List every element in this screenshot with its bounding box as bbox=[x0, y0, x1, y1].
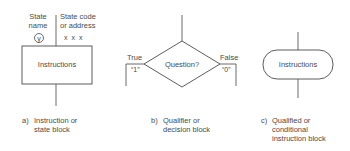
false-value: “0” bbox=[222, 66, 231, 73]
conditional-box-text: Instructions bbox=[279, 60, 318, 69]
asm-chart-symbols-diagram: State name y State code or address x x x… bbox=[0, 0, 350, 151]
caption-b-line1: Qualifier or bbox=[163, 116, 200, 125]
caption-a-letter: a) bbox=[22, 116, 29, 125]
false-label: False bbox=[220, 53, 238, 62]
caption-b-letter: b) bbox=[151, 116, 158, 125]
caption-a-line1: Instruction or bbox=[34, 116, 78, 125]
caption-c-letter: c) bbox=[261, 116, 268, 125]
state-name-label-line1: State bbox=[29, 12, 47, 21]
state-code-label-line2: or address bbox=[60, 21, 96, 30]
state-code-label-line1: State code bbox=[60, 12, 96, 21]
state-name-label-line2: name bbox=[29, 21, 48, 30]
state-box-text: Instructions bbox=[38, 60, 77, 69]
caption-b-line2: decision block bbox=[163, 125, 210, 134]
state-code-value: x x x bbox=[64, 34, 83, 41]
caption-c-line2: conditional bbox=[272, 125, 308, 134]
true-label: True bbox=[127, 53, 142, 62]
instruction-state-block: State name y State code or address x x x… bbox=[22, 12, 96, 134]
caption-a-line2: state block bbox=[34, 125, 70, 134]
true-value: “1” bbox=[131, 66, 140, 73]
caption-c-line3: instruction block bbox=[272, 134, 326, 143]
decision-block: Question? True “1” False “0” b) Qualifie… bbox=[126, 15, 238, 134]
decision-question: Question? bbox=[165, 60, 199, 69]
state-name-symbol: y bbox=[37, 35, 41, 43]
caption-c-line1: Qualified or bbox=[272, 116, 311, 125]
conditional-instruction-block: Instructions c) Qualified or conditional… bbox=[261, 32, 333, 143]
